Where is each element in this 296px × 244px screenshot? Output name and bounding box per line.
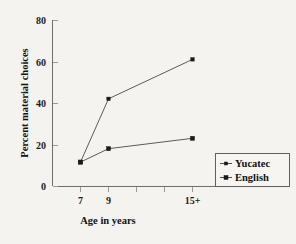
x-tick-label-7: 7 bbox=[78, 195, 83, 206]
x-axis-ticks bbox=[81, 187, 193, 193]
x-axis-title: Age in years bbox=[80, 215, 135, 226]
data-point-yucatec-9 bbox=[107, 97, 110, 100]
data-point-english-15plus bbox=[191, 136, 195, 140]
legend-label-yucatec: Yucatec bbox=[235, 158, 271, 169]
chart-figure: 80 60 40 20 0 7 9 15+ bbox=[0, 0, 296, 244]
legend-label-english: English bbox=[235, 172, 269, 183]
x-tick-label-9: 9 bbox=[106, 195, 111, 206]
data-point-english-7 bbox=[79, 160, 83, 164]
legend-marker-yucatec-icon bbox=[225, 162, 228, 165]
series-line-yucatec bbox=[81, 59, 193, 162]
x-tick-label-15plus: 15+ bbox=[185, 195, 201, 206]
series-markers-yucatec bbox=[79, 58, 195, 164]
y-tick-label-0: 0 bbox=[41, 181, 46, 192]
y-tick-label-40: 40 bbox=[36, 98, 46, 109]
y-tick-label-80: 80 bbox=[36, 15, 46, 26]
y-tick-label-20: 20 bbox=[36, 140, 46, 151]
y-tick-label-60: 60 bbox=[36, 57, 46, 68]
series-line-english bbox=[81, 138, 193, 162]
y-axis-ticks bbox=[53, 21, 59, 187]
y-axis-title: Percent material choices bbox=[19, 48, 30, 157]
legend-marker-english-icon bbox=[224, 176, 228, 180]
line-chart: 80 60 40 20 0 7 9 15+ bbox=[0, 0, 296, 244]
chart-legend[interactable]: Yucatec English bbox=[216, 154, 290, 187]
data-point-yucatec-15plus bbox=[191, 58, 194, 61]
data-point-english-9 bbox=[107, 147, 111, 151]
